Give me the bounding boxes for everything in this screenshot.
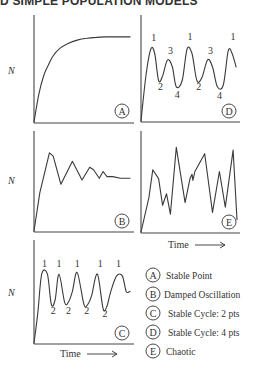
legend-label: Stable Cycle: 4 pts	[168, 328, 240, 338]
cycle-point-label: 1	[188, 31, 193, 42]
cycle-point-label: 1	[151, 32, 156, 43]
panel-badge-label: D	[225, 106, 232, 117]
panel-c: N111112222CTime	[7, 240, 134, 359]
legend-badge-label: B	[150, 289, 157, 300]
legend-badge-label: A	[149, 270, 157, 281]
x-axis-label: Time	[168, 239, 189, 250]
cycle-point-label: 3	[168, 45, 173, 56]
panel-b: NB	[7, 131, 134, 232]
legend-item: DStable Cycle: 4 pts	[146, 325, 240, 339]
y-axis-label: N	[7, 175, 16, 186]
population-models-figure: NANBN111112222CTime131312424DETime AStab…	[0, 0, 261, 376]
cycle-point-label: 2	[158, 81, 163, 92]
cycle-point-label: 1	[98, 258, 103, 269]
panel-a: NA	[7, 15, 134, 123]
panel-badge-label: B	[119, 216, 126, 227]
cycle-point-label: 2	[84, 305, 89, 316]
legend-badge-label: C	[150, 308, 157, 319]
panel-badge-label: E	[226, 217, 232, 228]
legend-item: AStable Point	[146, 268, 213, 282]
cycle-point-label: 1	[116, 258, 121, 269]
cycle-point-label: 4	[217, 90, 222, 101]
legend-badge-label: D	[149, 327, 156, 338]
cycle-point-label: 1	[75, 258, 80, 269]
legend-label: Stable Point	[166, 271, 213, 281]
x-axis-label: Time	[60, 348, 81, 359]
legend-label: Damped Oscillation	[164, 290, 240, 300]
legend-item: BDamped Oscillation	[146, 287, 240, 301]
cycle-point-label: 2	[66, 305, 71, 316]
cycle-point-label: 3	[208, 45, 213, 56]
legend-label: Chaotic	[166, 347, 196, 357]
cycle-point-label: 1	[231, 31, 236, 42]
cycle-point-label: 1	[56, 258, 61, 269]
cycle-point-label: 2	[103, 308, 108, 319]
panel-badge-label: C	[119, 328, 126, 339]
cycle-point-label: 2	[51, 305, 56, 316]
cycle-point-label: 4	[175, 89, 180, 100]
legend: AStable PointBDamped OscillationCStable …	[146, 268, 240, 358]
cycle-point-label: 1	[42, 258, 47, 269]
legend-item: EChaotic	[146, 344, 196, 358]
panel-badge-label: A	[118, 106, 126, 117]
y-axis-label: N	[7, 287, 16, 298]
panel-e: ETime	[141, 131, 240, 250]
y-axis-label: N	[7, 65, 16, 76]
panel-d: 131312424D	[141, 15, 240, 122]
legend-item: CStable Cycle: 2 pts	[146, 306, 240, 320]
legend-badge-label: E	[150, 346, 156, 357]
cycle-point-label: 2	[196, 81, 201, 92]
legend-label: Stable Cycle: 2 pts	[168, 309, 240, 319]
